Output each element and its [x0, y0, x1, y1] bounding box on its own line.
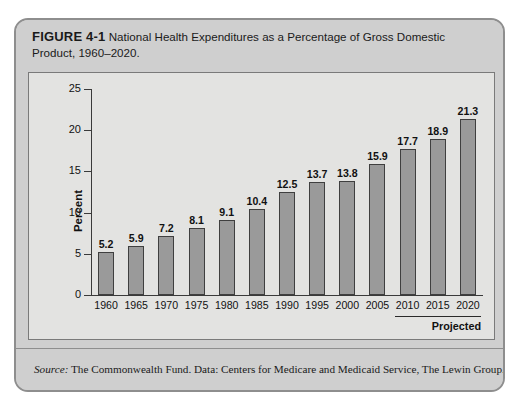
bar-value-label: 13.8 — [327, 167, 367, 179]
bar-value-label: 9.1 — [207, 206, 247, 218]
y-axis-tick — [84, 130, 92, 131]
bar — [98, 252, 114, 295]
bar — [460, 119, 476, 295]
y-axis-tick — [84, 89, 92, 90]
bar — [219, 220, 235, 295]
source-body: The Commonwealth Fund. Data: Centers for… — [68, 363, 504, 375]
source-lead: Source: — [34, 363, 68, 375]
bar-value-label: 21.3 — [448, 105, 488, 117]
projected-label: Projected — [395, 320, 481, 332]
projected-bracket-line — [395, 316, 481, 317]
y-axis-line — [91, 89, 92, 295]
figure-label: FIGURE 4-1 — [32, 29, 106, 44]
bar-value-label: 10.4 — [237, 195, 277, 207]
bar — [128, 246, 144, 295]
bar — [279, 192, 295, 295]
y-axis-tick — [84, 254, 92, 255]
bar — [189, 228, 205, 295]
y-axis-tick — [84, 171, 92, 172]
bar — [309, 182, 325, 295]
bar — [339, 181, 355, 295]
source-band: Source: The Commonwealth Fund. Data: Cen… — [16, 348, 503, 392]
y-axis-tick-label: 25 — [51, 82, 81, 94]
y-axis-tick-label: 0 — [51, 288, 81, 300]
y-axis-tick — [84, 213, 92, 214]
y-axis-tick — [84, 295, 92, 296]
bar-value-label: 5.9 — [116, 232, 156, 244]
y-axis-tick-label: 5 — [51, 247, 81, 259]
x-axis-line — [91, 295, 483, 296]
bar-value-label: 18.9 — [418, 125, 458, 137]
bar — [400, 149, 416, 295]
y-axis-tick-label: 15 — [51, 164, 81, 176]
y-axis-tick-label: 20 — [51, 123, 81, 135]
bar-chart: Percent 05101520255.219605.919657.219708… — [29, 73, 494, 339]
bar — [369, 164, 385, 295]
figure-box: FIGURE 4-1 National Health Expenditures … — [14, 18, 505, 392]
bar — [249, 209, 265, 295]
bar — [430, 139, 446, 295]
source-note: Source: The Commonwealth Fund. Data: Cen… — [34, 363, 491, 375]
x-axis-tick-label: 2020 — [448, 299, 488, 311]
chart-panel: Percent 05101520255.219605.919657.219708… — [28, 72, 495, 340]
y-axis-tick-label: 10 — [51, 206, 81, 218]
figure-caption: FIGURE 4-1 National Health Expenditures … — [16, 20, 503, 72]
bar — [158, 236, 174, 295]
bar-value-label: 15.9 — [357, 150, 397, 162]
